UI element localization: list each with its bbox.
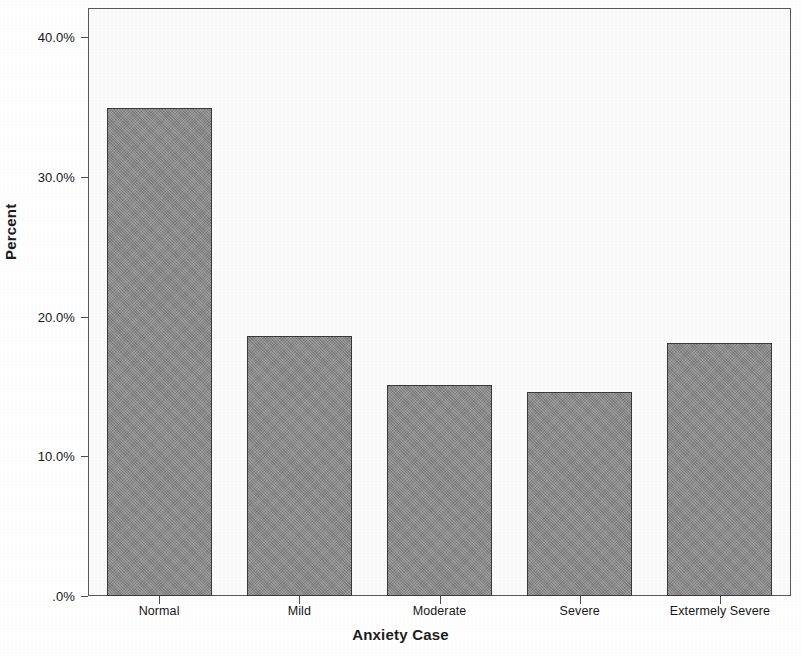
- y-axis-tick: [81, 456, 88, 457]
- y-axis-title: Percent: [2, 110, 19, 260]
- x-axis-title: Anxiety Case: [0, 626, 801, 643]
- x-axis-tick: [440, 596, 441, 604]
- y-axis-tick-label: .0%: [52, 589, 75, 604]
- y-axis-tick-label: 40.0%: [38, 30, 75, 45]
- x-axis-tick-label: Mild: [288, 604, 311, 618]
- x-axis-tick: [159, 596, 160, 604]
- y-axis-tick-label: 30.0%: [38, 169, 75, 184]
- x-axis-tick-label: Extermely Severe: [670, 604, 770, 618]
- y-axis-tick-label: 20.0%: [38, 309, 75, 324]
- bar: [387, 385, 492, 596]
- y-axis-tick-label: 10.0%: [38, 449, 75, 464]
- bar: [107, 108, 212, 596]
- y-axis-tick: [81, 37, 88, 38]
- y-axis-tick: [81, 317, 88, 318]
- bar: [247, 336, 352, 596]
- x-axis-tick-label: Normal: [139, 604, 180, 618]
- y-axis-tick: [81, 177, 88, 178]
- y-axis-tick: [81, 596, 88, 597]
- bar: [527, 392, 632, 596]
- x-axis-tick-label: Moderate: [413, 604, 467, 618]
- bar-chart-figure: Percent 40.0%30.0%20.0%10.0%.0% NormalMi…: [0, 0, 801, 656]
- x-axis-tick: [580, 596, 581, 604]
- x-axis-tick: [299, 596, 300, 604]
- x-axis-tick-label: Severe: [560, 604, 600, 618]
- bar: [667, 343, 772, 596]
- x-axis-tick: [720, 596, 721, 604]
